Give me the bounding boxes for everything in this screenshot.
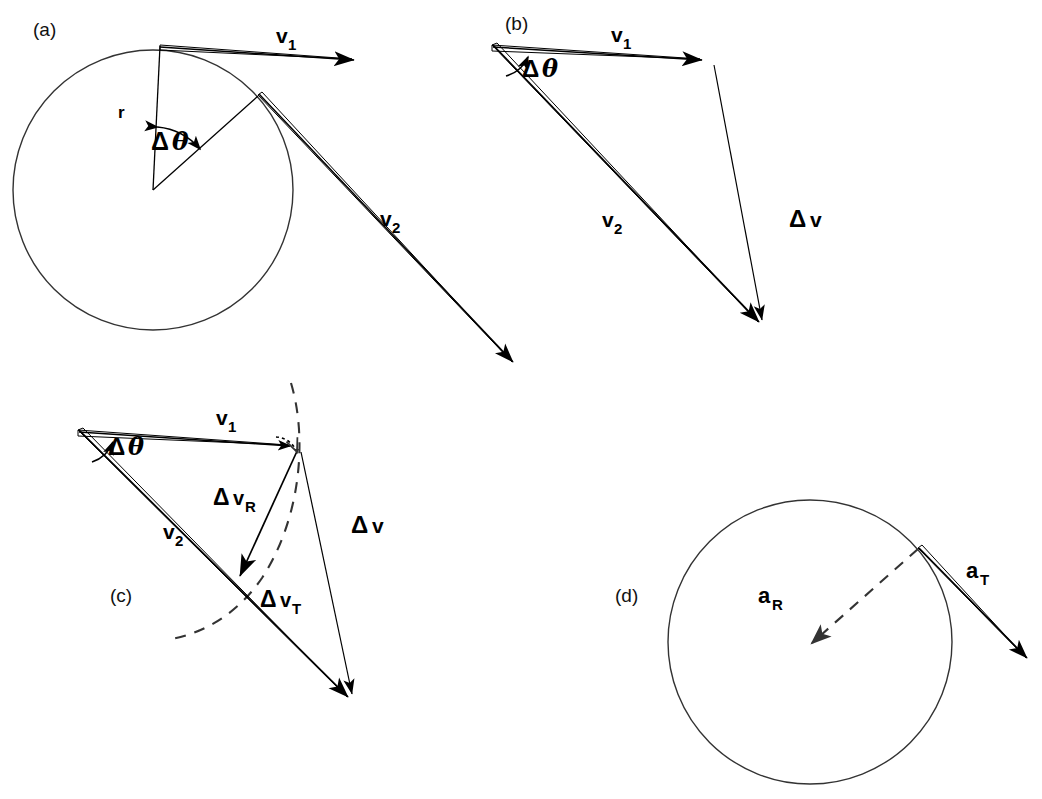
panel-c-v1-label: v 1 xyxy=(216,406,236,435)
panel-c-delta-glyph-R: Δ xyxy=(213,484,230,510)
panel-c-delta-v-label: Δ v xyxy=(351,511,384,538)
panel-b-v2-arrow xyxy=(493,45,759,322)
panel-c-theta-glyph: θ xyxy=(128,432,144,461)
panel-b-v2-label: v 2 xyxy=(602,208,622,237)
figure-canvas: (a) r Δ θ v 1 xyxy=(0,0,1042,799)
panel-c-v2-arrow xyxy=(79,430,348,697)
panel-a-v2-subscript: 2 xyxy=(392,219,400,236)
panel-a-tag: (a) xyxy=(33,19,56,40)
panel-c-v1-base: v xyxy=(216,406,228,429)
panel-c-v-glyph-T: v xyxy=(280,589,292,611)
panel-d-R-subscript: R xyxy=(772,596,783,613)
panel-c-v1-subscript: 1 xyxy=(228,418,236,435)
panel-b-group: (b) Δ θ v 1 v 2 xyxy=(492,13,822,322)
panel-b-delta-v-label: Δ v xyxy=(789,205,822,232)
panel-a-v1-label: v 1 xyxy=(276,24,296,53)
panel-b-delta-glyph: Δ xyxy=(522,55,539,82)
panel-a-radius-label: r xyxy=(118,103,125,122)
panel-d-circle-path xyxy=(668,500,952,784)
panel-a-delta-glyph: Δ xyxy=(151,127,169,155)
panel-d-aT-label: a T xyxy=(966,558,989,588)
panel-a-v1-base: v xyxy=(276,24,288,47)
panel-c-v2-subscript: 2 xyxy=(175,532,183,549)
panel-a-v2-base: v xyxy=(380,207,392,230)
panel-c-v-glyph-R: v xyxy=(233,487,245,509)
panel-b-v-glyph: v xyxy=(810,208,822,231)
panel-b-v1-subscript: 1 xyxy=(623,35,631,52)
panel-a-group: (a) r Δ θ v 1 xyxy=(13,19,513,362)
panel-b-delta-glyph-2: Δ xyxy=(789,205,806,232)
panel-d-aR-label: a R xyxy=(758,583,783,613)
panel-c-v-glyph: v xyxy=(372,514,384,537)
panel-c-delta-theta-label: Δ θ xyxy=(108,432,144,461)
panel-a-radius-line-1 xyxy=(153,46,160,190)
physics-figure-root: (a) r Δ θ v 1 xyxy=(0,0,1042,799)
panel-b-tag: (b) xyxy=(505,13,528,34)
panel-c-delta-glyph: Δ xyxy=(108,433,125,460)
panel-d-T-subscript: T xyxy=(980,571,989,588)
panel-c-v2-label: v 2 xyxy=(163,520,183,549)
panel-c-T-subscript: T xyxy=(292,600,301,617)
panel-c-v2-base: v xyxy=(163,520,175,543)
panel-b-v2-subscript: 2 xyxy=(614,220,622,237)
panel-d-a-glyph-R: a xyxy=(758,583,771,608)
panel-c-delta-glyph-2: Δ xyxy=(351,511,368,538)
panel-b-theta-glyph: θ xyxy=(542,54,558,83)
panel-b-v2-base: v xyxy=(602,208,614,231)
panel-a-v1-shaft xyxy=(160,45,352,59)
panel-a-delta-theta-label: Δ θ xyxy=(151,127,189,156)
panel-d-group: (d) a R a T xyxy=(615,500,1027,784)
panel-c-group: (c) Δ θ v 1 xyxy=(78,383,384,697)
panel-b-delta-theta-label: Δ θ xyxy=(522,54,558,83)
panel-d-a-glyph-T: a xyxy=(966,558,979,583)
panel-a-v1-subscript: 1 xyxy=(288,36,296,53)
panel-a-v1-arrow xyxy=(160,47,354,60)
panel-b-v1-label: v 1 xyxy=(611,23,631,52)
panel-c-delta-glyph-T: Δ xyxy=(260,586,277,612)
panel-b-v1-base: v xyxy=(611,23,623,46)
panel-c-delta-vT-label: Δ v T xyxy=(260,586,301,617)
panel-c-tag: (c) xyxy=(110,585,132,606)
panel-c-R-subscript: R xyxy=(245,498,256,515)
panel-c-delta-vR-label: Δ v R xyxy=(213,484,256,515)
panel-a-theta-glyph: θ xyxy=(172,127,189,156)
panel-d-tag: (d) xyxy=(615,585,638,606)
panel-d-aR-arrow xyxy=(812,549,918,643)
